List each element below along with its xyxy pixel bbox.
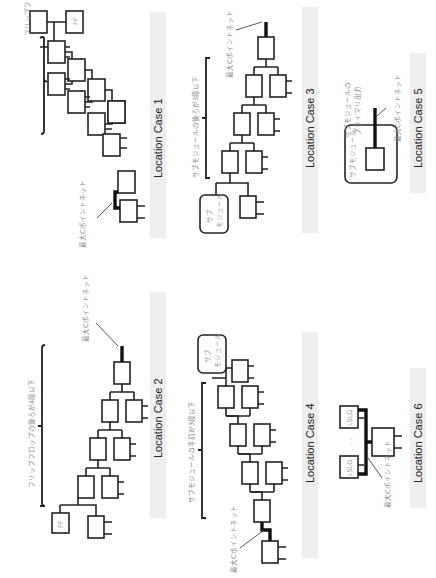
output-label-line1: サブモジュールの [343, 82, 352, 138]
gate-cell [88, 516, 104, 538]
output-cell [120, 200, 137, 222]
submodule-label-line2: モジュール [216, 193, 224, 228]
submodule-label-line1: サブ [203, 349, 212, 363]
net-arrow [377, 108, 386, 116]
case-caption: Location Case 6 [412, 404, 424, 484]
case-caption: Location Case 4 [304, 404, 316, 484]
brace-label: サブモジュールの後ろが3段以下 [191, 76, 200, 178]
gate-cell [232, 360, 248, 382]
location-cases-diagram: FF フリップフロップの手前が4段以下 最大Cポイントネット Locatio [0, 0, 436, 578]
gate-cell [270, 75, 286, 97]
case-3-panel: サブ モジュール サブモジュールの後ろが3段以下 最大Cポイントネット Loca… [191, 7, 318, 233]
case-caption: Location Case 1 [152, 99, 164, 179]
stage-brace [198, 383, 206, 518]
case-2-panel: FF フリップフロップの後ろが4段以下 最大Cポイントネット Location … [27, 274, 166, 538]
submodule-label-line1: サブ [205, 209, 214, 223]
gate-cell [254, 500, 270, 522]
case-5-panel: サブモジュール サブモジュールの プライマリ出力 最大Cポイントネット Loca… [343, 53, 426, 193]
gate-cell [254, 424, 270, 446]
gate-cell [88, 113, 105, 135]
net-arrow [240, 530, 264, 548]
gate-cell [118, 171, 135, 193]
brace-label: フリップフロップの後ろが4段以下 [27, 379, 36, 488]
case-caption: Location Case 5 [412, 89, 424, 169]
gate-cell [366, 148, 384, 170]
submodule-label-line2: モジュール [214, 333, 222, 368]
gate-cell [68, 91, 85, 113]
gate-cell [102, 400, 118, 422]
gate-cell [48, 73, 65, 95]
stage-brace [38, 345, 45, 506]
ff-label: FF [57, 520, 65, 528]
gate-cell [126, 400, 142, 422]
net-label: 最大Cポイントネット [81, 274, 90, 342]
net-arrow [97, 203, 112, 218]
gate-cell [90, 438, 106, 460]
gate-cell [103, 134, 120, 156]
gate-cell [114, 438, 130, 460]
case-1-panel: FF フリップフロップの手前が4段以下 最大Cポイントネット Locatio [23, 0, 166, 248]
gate-cell [102, 476, 118, 498]
ellipsis: … [346, 439, 354, 446]
gate-cell [218, 386, 234, 408]
stage-brace [40, 37, 47, 134]
gate-cell [230, 424, 246, 446]
max-c-point-net [262, 522, 270, 541]
gate-cell [246, 75, 262, 97]
output-cell [258, 37, 274, 59]
gate-cell [108, 101, 125, 123]
gate-cell [48, 41, 65, 63]
diagram-canvas: FF フリップフロップの手前が4段以下 最大Cポイントネット Locatio [0, 0, 436, 578]
case-6-panel: LSLG LSLG … 最大Cポイントネット Location Case 6 [340, 368, 426, 508]
case-caption: Location Case 3 [304, 89, 316, 169]
net-label: 最大Cポイントネット [383, 440, 392, 508]
stage-brace [202, 58, 210, 178]
output-cell [114, 362, 130, 384]
gate-cell [258, 113, 274, 135]
gate-cell [88, 79, 105, 101]
lslg-label: LSLG [346, 410, 354, 426]
gate-cell [246, 151, 262, 173]
gate-cell [30, 11, 47, 33]
ff-label: FF [72, 17, 80, 25]
gate-cell [68, 59, 85, 81]
case-caption: Location Case 2 [152, 379, 164, 459]
gate-cell [266, 462, 282, 484]
net-label: 最大Cポイントネット [78, 180, 87, 248]
net-label: 最大Cポイントネット [229, 505, 238, 573]
gate-cell [242, 386, 258, 408]
brace-label: フリップフロップの手前が4段以下 [23, 0, 32, 36]
gate-cell [242, 462, 258, 484]
net-arrow [236, 22, 262, 30]
case-4-panel: サブ モジュール サブモジュールの手前が3段以下 最大Cポイントネット Loca… [187, 332, 318, 573]
gate-cell [240, 196, 256, 218]
net-label: 最大Cポイントネット [393, 74, 402, 142]
output-label-line2: プライマリ出力 [353, 86, 362, 135]
lslg-label: LSLG [346, 460, 354, 476]
net-arrow [368, 458, 382, 478]
gate-cell [78, 476, 94, 498]
output-cell [262, 541, 278, 563]
net-label: 最大Cポイントネット [225, 10, 234, 78]
gate-cell [222, 151, 238, 173]
gate-cell [234, 113, 250, 135]
net-arrow [96, 323, 118, 346]
brace-label: サブモジュールの手前が3段以下 [187, 401, 196, 503]
